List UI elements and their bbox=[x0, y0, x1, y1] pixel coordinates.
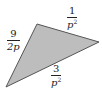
label-bottom-numerator: 3 bbox=[52, 64, 60, 75]
label-top-right-numerator: 1 bbox=[68, 6, 76, 17]
label-left-side: 9 2p bbox=[7, 29, 20, 52]
label-left-numerator: 9 bbox=[9, 29, 17, 40]
label-bottom-side: 3 p2 bbox=[51, 64, 61, 88]
label-top-right-side: 1 p2 bbox=[67, 6, 77, 30]
label-top-right-denominator: p2 bbox=[67, 18, 77, 30]
label-bottom-denominator: p2 bbox=[51, 76, 61, 88]
label-left-denominator: 2p bbox=[7, 41, 20, 52]
